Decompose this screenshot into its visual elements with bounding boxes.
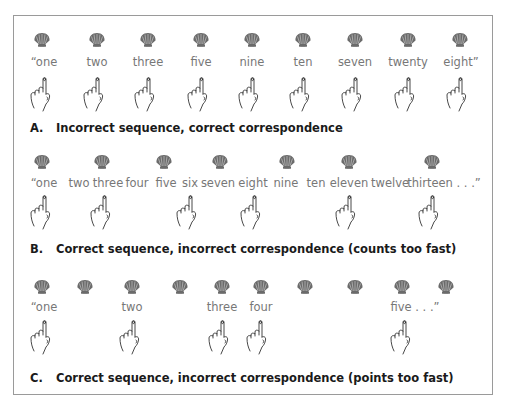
shell-icon <box>437 279 455 295</box>
shell-icon <box>123 279 141 295</box>
shell-icon <box>139 32 157 48</box>
shell-icon <box>243 32 261 48</box>
pointing-hand-icon <box>116 319 146 355</box>
count-word: thirteen . . .” <box>407 176 481 190</box>
panel-caption: A.Incorrect sequence, correct correspond… <box>30 121 343 135</box>
shell-icon <box>88 32 106 48</box>
shell-icon <box>296 279 314 295</box>
shell-icon <box>33 32 51 48</box>
count-word: twelve <box>371 176 409 190</box>
shell-icon <box>213 279 231 295</box>
pointing-hand-icon <box>205 319 235 355</box>
pointing-hand-icon <box>243 319 273 355</box>
shell-icon <box>278 154 296 170</box>
pointing-hand-icon <box>237 194 267 230</box>
count-word: nine <box>240 55 265 69</box>
count-word: six <box>182 176 198 190</box>
count-word: two <box>87 55 108 69</box>
pointing-hand-icon <box>87 194 117 230</box>
panel-caption-text: Correct sequence, incorrect corresponden… <box>56 242 456 256</box>
pointing-hand-icon <box>286 76 316 112</box>
pointing-hand-icon <box>391 76 421 112</box>
pointing-hand-icon <box>27 194 57 230</box>
shell-icon <box>451 32 469 48</box>
pointing-hand-icon <box>332 194 362 230</box>
count-word: five . . .” <box>390 300 439 314</box>
pointing-hand-icon <box>131 76 161 112</box>
pointing-hand-icon <box>338 76 368 112</box>
shell-icon <box>93 154 111 170</box>
panel-caption-text: Incorrect sequence, correct corresponden… <box>56 121 343 135</box>
shell-icon <box>393 279 411 295</box>
count-word: ten <box>294 55 313 69</box>
shell-icon <box>423 154 441 170</box>
shell-icon <box>211 154 229 170</box>
count-word: “one <box>31 176 58 190</box>
count-word: three <box>93 176 123 190</box>
count-word: ten <box>307 176 326 190</box>
count-word: four <box>249 300 272 314</box>
shell-icon <box>294 32 312 48</box>
count-word: “one <box>31 55 58 69</box>
shell-icon <box>155 154 173 170</box>
pointing-hand-icon <box>387 319 417 355</box>
count-word: five <box>155 176 176 190</box>
count-word: three <box>207 300 237 314</box>
count-word: seven <box>201 176 235 190</box>
count-word: two <box>69 176 90 190</box>
count-word: eight <box>238 176 267 190</box>
count-word: twenty <box>388 55 428 69</box>
shell-icon <box>33 154 51 170</box>
shell-icon <box>252 279 270 295</box>
count-word: “one <box>31 300 58 314</box>
pointing-hand-icon <box>173 194 203 230</box>
panel-caption-text: Correct sequence, incorrect corresponden… <box>56 371 454 385</box>
shell-icon <box>171 279 189 295</box>
shell-icon <box>340 154 358 170</box>
pointing-hand-icon <box>443 76 473 112</box>
shell-icon <box>399 32 417 48</box>
pointing-hand-icon <box>27 319 57 355</box>
count-word: eleven <box>330 176 369 190</box>
count-word: eight” <box>443 55 478 69</box>
count-word: five <box>190 55 211 69</box>
shell-icon <box>33 279 51 295</box>
count-word: four <box>125 176 148 190</box>
shell-icon <box>346 279 364 295</box>
count-word: two <box>122 300 143 314</box>
panel-letter: B. <box>30 242 56 256</box>
shell-icon <box>346 32 364 48</box>
panel-caption: B.Correct sequence, incorrect correspond… <box>30 242 456 256</box>
shell-icon <box>192 32 210 48</box>
count-word: three <box>133 55 163 69</box>
panel-letter: A. <box>30 121 56 135</box>
panel-letter: C. <box>30 371 56 385</box>
count-word: seven <box>338 55 372 69</box>
panel-caption: C.Correct sequence, incorrect correspond… <box>30 371 454 385</box>
pointing-hand-icon <box>27 76 57 112</box>
pointing-hand-icon <box>235 76 265 112</box>
shell-icon <box>76 279 94 295</box>
count-word: nine <box>274 176 299 190</box>
pointing-hand-icon <box>415 194 445 230</box>
counting-principles-diagram: “onetwothreefiveninetenseventwentyeight”… <box>0 0 509 407</box>
pointing-hand-icon <box>184 76 214 112</box>
pointing-hand-icon <box>80 76 110 112</box>
